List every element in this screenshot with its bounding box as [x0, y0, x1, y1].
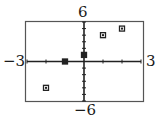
y-max-label: 6: [78, 5, 88, 20]
data-point-square-marker: [82, 52, 87, 57]
x-max-label: 3: [146, 54, 156, 69]
data-point-square-marker: [63, 59, 68, 64]
x-min-label: −3: [3, 54, 25, 69]
data-point-center-dot: [45, 87, 47, 89]
data-point-center-dot: [121, 28, 123, 30]
y-min-label: −6: [74, 103, 96, 118]
data-point-center-dot: [102, 34, 104, 36]
